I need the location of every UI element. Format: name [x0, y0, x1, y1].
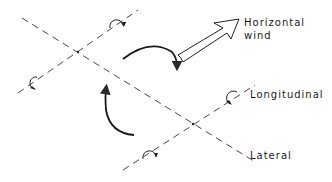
rotation-icon-left [30, 77, 37, 90]
horizontal-wind-arrow-icon [178, 19, 239, 62]
horizontal-wind-label-line1: Horizontal [244, 17, 305, 29]
longitudinal-label: Longitudinal [250, 89, 324, 101]
lateral-axis-line [22, 18, 257, 163]
rotation-icon-bottom [143, 151, 158, 159]
curved-arrow-upper-icon [123, 46, 177, 66]
intersection-point-lower [192, 123, 194, 125]
horizontal-wind-label-line2: wind [244, 30, 272, 42]
lateral-label: Lateral [250, 150, 292, 162]
curved-arrow-lower-icon [106, 89, 135, 135]
intersection-point-upper [77, 51, 79, 53]
